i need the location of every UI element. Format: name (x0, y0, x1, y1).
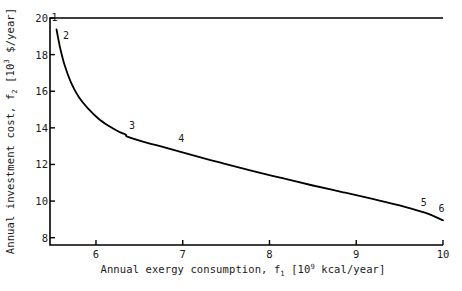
y-axis-title: Annual investment cost, f2 [103 $/year] (5, 8, 16, 254)
y-tick-label: 10 (26, 196, 48, 207)
point-label-2: 2 (63, 31, 69, 41)
y-axis-title-superscript: 3 (2, 59, 11, 63)
x-axis-title-mid: [10 (285, 263, 311, 275)
point-label-5: 5 (421, 198, 427, 208)
x-tick-label: 10 (431, 249, 455, 260)
y-axis-title-post: $/year] (4, 8, 16, 59)
x-tick-label: 7 (171, 249, 195, 260)
point-label-6: 6 (439, 204, 445, 214)
y-axis-title-pre: Annual investment cost, f (4, 94, 16, 255)
axes-frame (50, 18, 443, 245)
y-axis-tick-labels: 8101214161820 (22, 0, 48, 291)
x-axis-title-pre: Annual exergy consumption, f (101, 263, 281, 275)
point-label-3: 3 (129, 121, 135, 131)
y-tick-label: 8 (26, 232, 48, 243)
x-tick-label: 9 (344, 249, 368, 260)
x-axis-title-post: kcal/year] (315, 263, 386, 275)
plot-area (0, 0, 462, 291)
point-label-1: 1 (51, 13, 57, 23)
y-axis-title-mid: [10 (4, 64, 16, 90)
point-label-4: 4 (178, 134, 184, 144)
x-tick-label: 6 (84, 249, 108, 260)
x-tick-label: 8 (257, 249, 281, 260)
x-axis-title: Annual exergy consumption, f1 [109 kcal/… (0, 264, 462, 275)
chart-figure: Annual investment cost, f2 [103 $/year] … (0, 0, 462, 291)
pareto-curve (57, 29, 443, 220)
y-tick-label: 18 (26, 49, 48, 60)
y-tick-label: 12 (26, 159, 48, 170)
y-axis-title-wrapper: Annual investment cost, f2 [103 $/year] (0, 0, 20, 262)
y-tick-label: 20 (26, 13, 48, 24)
y-axis-title-subscript: 2 (10, 89, 19, 93)
y-tick-label: 14 (26, 123, 48, 134)
y-tick-label: 16 (26, 86, 48, 97)
